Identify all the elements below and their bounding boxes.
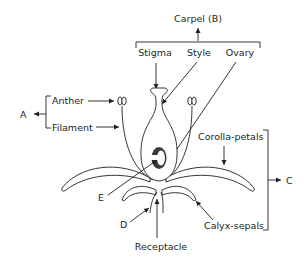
left-anther-icon: [118, 97, 126, 105]
style-label: Style: [187, 47, 211, 58]
right-sepal: [162, 186, 196, 200]
stigma-label: Stigma: [138, 47, 172, 58]
stamen-label: A: [20, 109, 27, 120]
calyx-arrow: [196, 201, 213, 220]
calyx-label: Calyx-sepals: [204, 220, 264, 231]
ovary-label: Ovary: [226, 47, 255, 58]
e-label: E: [98, 192, 104, 203]
perianth-label: C: [286, 175, 293, 186]
stamen-bracket: [46, 96, 51, 128]
anther-label: Anther: [52, 95, 84, 106]
perianth-bracket: [263, 130, 268, 230]
right-anther-icon: [188, 97, 196, 105]
corolla-label: Corolla-petals: [198, 131, 264, 142]
flower-diagram: Carpel (B) Stigma Style Ovary A Anther F…: [0, 0, 308, 264]
d-arrow: [130, 208, 149, 222]
receptacle-label: Receptacle: [135, 241, 188, 252]
ovary-arrow: [171, 62, 236, 158]
filament-label: Filament: [52, 122, 93, 133]
left-sepal: [122, 186, 156, 200]
carpel-label: Carpel (B): [174, 13, 222, 24]
d-label: D: [120, 219, 127, 230]
